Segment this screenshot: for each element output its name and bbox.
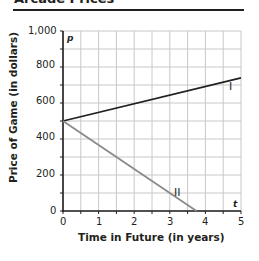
y-axis-variable: p — [66, 33, 74, 43]
x-tick-0: 0 — [60, 216, 66, 227]
y-tick-1000: 1,000 — [28, 25, 57, 36]
series-label-i: I — [229, 80, 232, 93]
y-tick-200: 200 — [36, 168, 55, 179]
y-axis-label: Price of Game (in dollars) — [7, 53, 19, 183]
y-tick-800: 800 — [36, 59, 55, 70]
x-tick-1: 1 — [96, 216, 102, 227]
x-tick-3: 3 — [167, 216, 173, 227]
y-tick-600: 600 — [36, 95, 55, 106]
x-tick-5: 5 — [238, 216, 244, 227]
y-tick-0: 0 — [50, 205, 56, 216]
series-label-ii: II — [174, 186, 181, 199]
x-tick-2: 2 — [131, 216, 137, 227]
x-tick-4: 4 — [202, 216, 208, 227]
y-tick-400: 400 — [36, 131, 55, 142]
x-axis-variable: t — [233, 199, 238, 209]
x-axis-label: Time in Future (in years) — [78, 231, 225, 243]
